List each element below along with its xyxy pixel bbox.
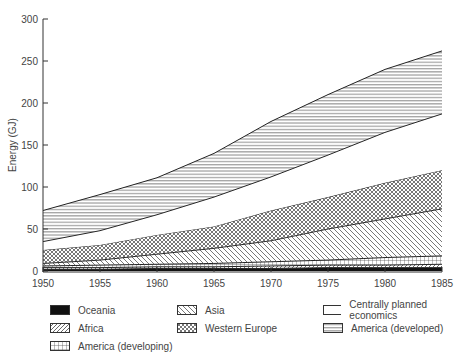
legend-swatch-icon <box>50 305 70 315</box>
legend-item: Centrally planned economics <box>323 304 467 316</box>
x-tick-label: 1960 <box>146 278 169 289</box>
y-axis-label: Energy (GJ) <box>7 118 18 172</box>
legend-label: America (developed) <box>351 323 443 334</box>
y-tick-label: 100 <box>21 182 38 193</box>
x-tick-label: 1965 <box>203 278 226 289</box>
legend-item: Oceania <box>50 304 115 316</box>
y-tick-label: 200 <box>21 98 38 109</box>
legend-swatch-icon <box>323 305 341 315</box>
chart-areas <box>43 51 442 271</box>
legend-label: Asia <box>205 305 224 316</box>
legend-swatch-icon <box>177 323 197 333</box>
stacked-area-chart: 0501001502002503001950195519601965197019… <box>0 0 467 300</box>
x-tick-label: 1970 <box>260 278 283 289</box>
legend-item: Western Europe <box>177 322 277 334</box>
legend-item: Africa <box>50 322 104 334</box>
y-tick-label: 0 <box>32 266 38 277</box>
legend-swatch-icon <box>323 323 343 333</box>
legend-item: Asia <box>177 304 224 316</box>
x-tick-label: 1980 <box>374 278 397 289</box>
x-tick-label: 1955 <box>89 278 112 289</box>
legend-item: America (developed) <box>323 322 443 334</box>
legend-label: Centrally planned economics <box>349 299 467 321</box>
legend-swatch-icon <box>50 341 70 351</box>
x-tick-label: 1950 <box>32 278 55 289</box>
y-tick-label: 250 <box>21 56 38 67</box>
legend-label: Africa <box>78 323 104 334</box>
legend-item: America (developing) <box>50 340 173 352</box>
legend-label: America (developing) <box>78 341 173 352</box>
legend-swatch-icon <box>50 323 70 333</box>
legend-label: Western Europe <box>205 323 277 334</box>
y-tick-label: 50 <box>27 224 39 235</box>
legend-swatch-icon <box>177 305 197 315</box>
x-tick-label: 1985 <box>431 278 454 289</box>
y-tick-label: 300 <box>21 14 38 25</box>
y-tick-label: 150 <box>21 140 38 151</box>
legend-label: Oceania <box>78 305 115 316</box>
x-tick-label: 1975 <box>317 278 340 289</box>
